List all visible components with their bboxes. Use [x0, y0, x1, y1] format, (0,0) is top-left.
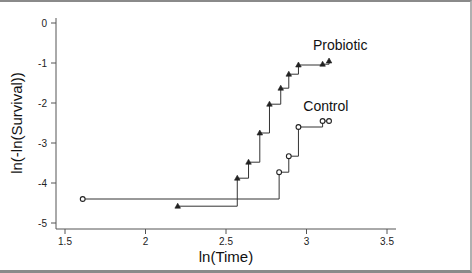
x-tick-label: 3: [304, 236, 310, 247]
series-label-probiotic: Probiotic: [313, 37, 367, 53]
step-line: [83, 121, 329, 199]
x-tick-label: 2.5: [219, 236, 233, 247]
x-tick-label: 1.5: [58, 236, 72, 247]
y-tick-label: -2: [38, 98, 47, 109]
step-survival-chart: 0-1-2-3-4-51.522.533.5 ProbioticControl …: [0, 0, 472, 273]
y-tick-label: -4: [38, 178, 47, 189]
x-tick-label: 3.5: [380, 236, 394, 247]
series-group: ProbioticControl: [80, 37, 367, 208]
circle-marker-icon: [320, 119, 325, 124]
x-tick-label: 2: [143, 236, 149, 247]
y-axis-title: ln(-ln(Survival)): [8, 72, 25, 174]
circle-marker-icon: [296, 125, 301, 130]
y-tick-label: -1: [38, 58, 47, 69]
circle-marker-icon: [80, 197, 85, 202]
y-tick-label: -3: [38, 138, 47, 149]
circle-marker-icon: [286, 154, 291, 159]
x-axis-title: ln(Time): [199, 248, 253, 265]
series-probiotic: Probiotic: [175, 37, 368, 208]
y-tick-label: -5: [38, 218, 47, 229]
y-tick-label: 0: [41, 18, 47, 29]
circle-marker-icon: [327, 119, 332, 124]
circle-marker-icon: [277, 170, 282, 175]
step-line: [178, 61, 329, 206]
series-control: Control: [80, 98, 348, 201]
series-label-control: Control: [303, 98, 348, 114]
triangle-marker-icon: [326, 58, 332, 63]
